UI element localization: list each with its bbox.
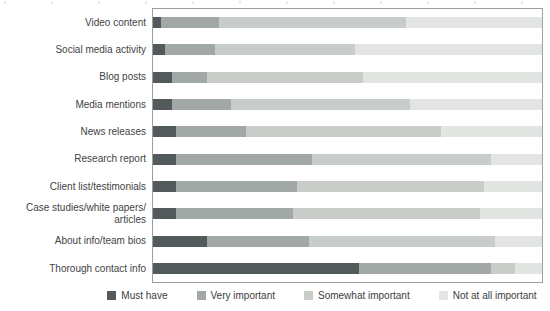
- bar-segment-not-at-all-important: [484, 181, 542, 192]
- legend-item: Not at all important: [439, 290, 537, 301]
- bar-segment-must-have: [153, 99, 172, 110]
- chart-row: Case studies/white papers/ articles: [153, 200, 542, 227]
- chart-row: Client list/testimonials: [153, 173, 542, 200]
- chart-row: Thorough contact info: [153, 255, 542, 282]
- stacked-bar: [153, 208, 542, 219]
- category-label: Client list/testimonials: [1, 181, 146, 193]
- bar-segment-must-have: [153, 208, 176, 219]
- bar-segment-very-important: [172, 72, 207, 83]
- stacked-bar: [153, 154, 542, 165]
- stacked-bar: [153, 44, 542, 55]
- bar-segment-somewhat-important: [293, 208, 480, 219]
- bar-segment-must-have: [153, 263, 359, 274]
- bar-segment-must-have: [153, 72, 172, 83]
- category-label: Media mentions: [1, 99, 146, 111]
- bar-segment-must-have: [153, 44, 165, 55]
- stacked-bar: [153, 181, 542, 192]
- legend-swatch-icon: [197, 291, 206, 300]
- category-label: Video content: [1, 17, 146, 29]
- stacked-bar: [153, 72, 542, 83]
- legend-item: Must have: [107, 290, 167, 301]
- legend-label: Somewhat important: [318, 290, 410, 301]
- legend-swatch-icon: [304, 291, 313, 300]
- bar-segment-somewhat-important: [309, 236, 496, 247]
- bar-segment-somewhat-important: [215, 44, 355, 55]
- bar-segment-somewhat-important: [219, 17, 406, 28]
- stacked-bar-chart: Video contentSocial media activityBlog p…: [0, 0, 550, 311]
- stacked-bar: [153, 99, 542, 110]
- bar-segment-very-important: [165, 44, 216, 55]
- plot-area: Video contentSocial media activityBlog p…: [152, 8, 543, 283]
- bar-segment-somewhat-important: [231, 99, 410, 110]
- category-label: Thorough contact info: [1, 263, 146, 275]
- legend-label: Must have: [121, 290, 167, 301]
- bar-segment-somewhat-important: [246, 126, 441, 137]
- chart-row: About info/team bios: [153, 227, 542, 254]
- legend-swatch-icon: [107, 291, 116, 300]
- stacked-bar: [153, 263, 542, 274]
- chart-row: Social media activity: [153, 36, 542, 63]
- category-label: Blog posts: [1, 71, 146, 83]
- bar-segment-very-important: [161, 17, 219, 28]
- chart-row: News releases: [153, 118, 542, 145]
- bar-segment-somewhat-important: [491, 263, 514, 274]
- bar-segment-must-have: [153, 181, 176, 192]
- bar-segment-not-at-all-important: [355, 44, 542, 55]
- chart-row: Blog posts: [153, 64, 542, 91]
- cropped-title-remnant: [4, 1, 544, 4]
- bar-segment-not-at-all-important: [410, 99, 542, 110]
- bar-segment-very-important: [176, 181, 297, 192]
- bar-segment-very-important: [172, 99, 230, 110]
- category-label: Case studies/white papers/ articles: [1, 202, 146, 225]
- bar-segment-somewhat-important: [207, 72, 363, 83]
- legend-swatch-icon: [439, 291, 448, 300]
- bar-segment-very-important: [176, 154, 312, 165]
- bar-segment-very-important: [207, 236, 308, 247]
- bar-segment-very-important: [359, 263, 491, 274]
- chart-row: Research report: [153, 145, 542, 172]
- legend-label: Very important: [211, 290, 275, 301]
- bar-segment-somewhat-important: [312, 154, 491, 165]
- bar-segment-not-at-all-important: [363, 72, 542, 83]
- bar-segment-must-have: [153, 17, 161, 28]
- bar-segment-not-at-all-important: [515, 263, 542, 274]
- category-label: About info/team bios: [1, 235, 146, 247]
- category-label: Social media activity: [1, 44, 146, 56]
- bar-segment-must-have: [153, 236, 207, 247]
- stacked-bar: [153, 126, 542, 137]
- bar-segment-very-important: [176, 126, 246, 137]
- bar-segment-not-at-all-important: [495, 236, 542, 247]
- chart-row: Video content: [153, 9, 542, 36]
- category-label: News releases: [1, 126, 146, 138]
- bar-segment-very-important: [176, 208, 293, 219]
- bar-segment-not-at-all-important: [480, 208, 542, 219]
- bar-segment-must-have: [153, 126, 176, 137]
- legend: Must haveVery importantSomewhat importan…: [0, 290, 550, 301]
- category-label: Research report: [1, 153, 146, 165]
- stacked-bar: [153, 236, 542, 247]
- stacked-bar: [153, 17, 542, 28]
- bar-segment-not-at-all-important: [491, 154, 542, 165]
- legend-item: Somewhat important: [304, 290, 410, 301]
- bar-segment-not-at-all-important: [441, 126, 542, 137]
- chart-row: Media mentions: [153, 91, 542, 118]
- bar-segment-must-have: [153, 154, 176, 165]
- legend-label: Not at all important: [453, 290, 537, 301]
- bar-segment-not-at-all-important: [406, 17, 542, 28]
- legend-item: Very important: [197, 290, 275, 301]
- bar-segment-somewhat-important: [297, 181, 484, 192]
